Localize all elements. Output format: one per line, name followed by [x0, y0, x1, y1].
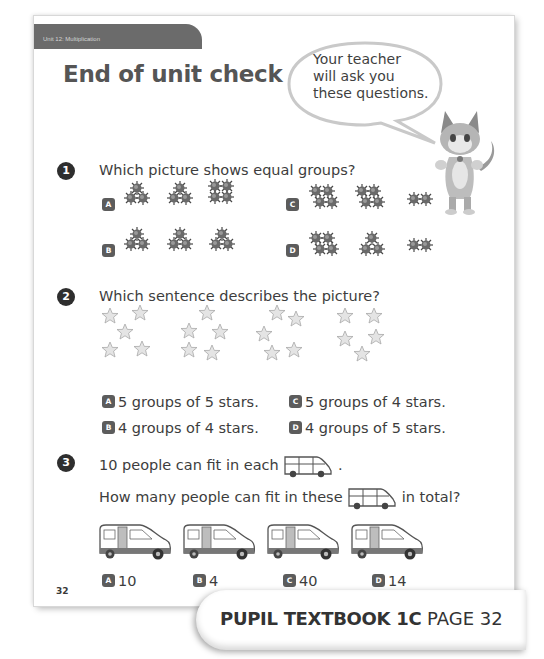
q3-option-b[interactable]: B4	[193, 570, 218, 589]
van-icon	[352, 525, 422, 560]
q3-option-a[interactable]: A10	[102, 570, 136, 589]
van-icon	[268, 525, 338, 560]
q3-van-pictures	[34, 16, 514, 606]
q3-option-d[interactable]: D14	[372, 570, 406, 589]
van-icon	[184, 525, 254, 560]
option-text: 40	[299, 573, 317, 589]
textbook-page: Unit 12: Multiplication End of unit chec…	[34, 16, 514, 606]
option-text: 10	[118, 573, 136, 589]
textbook-reference-tab: PUPIL TEXTBOOK 1C PAGE 32	[196, 590, 526, 650]
textbook-reference: PUPIL TEXTBOOK 1C	[220, 608, 421, 629]
textbook-page-reference: PAGE 32	[427, 608, 503, 629]
option-letter-badge: C	[283, 574, 296, 587]
q3-option-c[interactable]: C40	[283, 570, 317, 589]
van-icon	[100, 525, 170, 560]
option-text: 4	[209, 573, 218, 589]
option-text: 14	[388, 573, 406, 589]
option-letter-badge: A	[102, 574, 115, 587]
page-number: 32	[56, 586, 69, 596]
option-letter-badge: B	[193, 574, 206, 587]
option-letter-badge: D	[372, 574, 385, 587]
